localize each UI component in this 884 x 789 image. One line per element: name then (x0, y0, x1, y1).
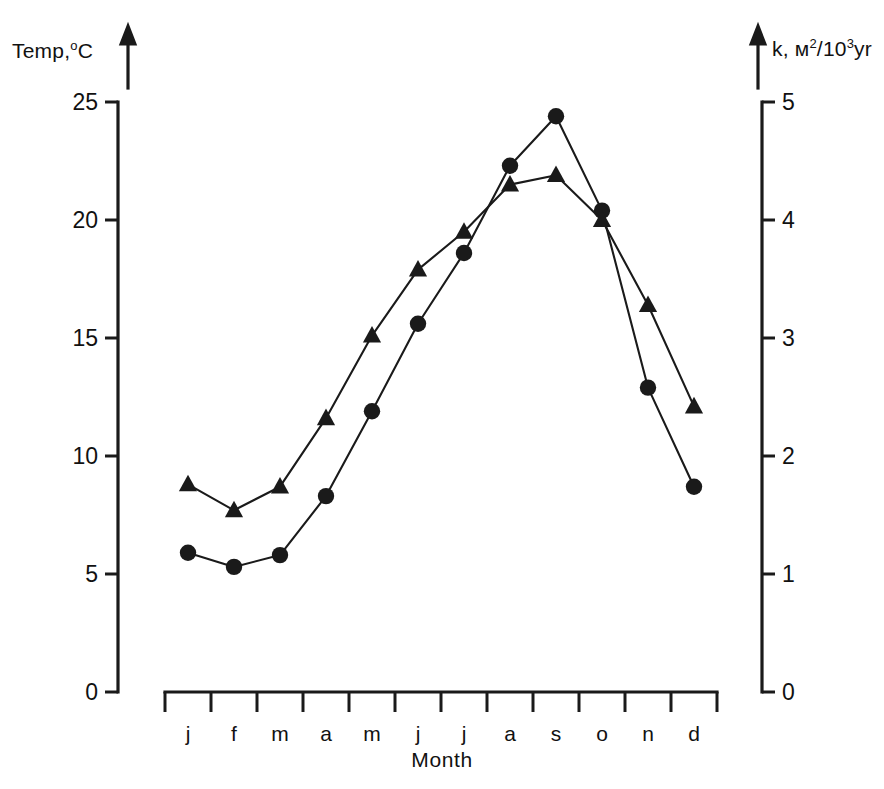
data-point-circle (686, 479, 702, 495)
data-point-circle (272, 547, 288, 563)
x-axis-month-label: o (596, 722, 608, 745)
x-axis-month-label: f (231, 722, 237, 745)
data-point-triangle (271, 477, 289, 494)
data-point-circle (502, 158, 518, 174)
plot-area: 0510152025 012345 jfmamjjasond (0, 0, 884, 789)
data-point-circle (226, 559, 242, 575)
x-axis-month-label: j (461, 722, 467, 745)
data-point-circle (548, 108, 564, 124)
left-axis-tick-label: 25 (72, 89, 98, 115)
left-axis: 0510152025 (72, 89, 118, 705)
data-point-circle (410, 316, 426, 332)
right-axis-tick-label: 1 (782, 561, 795, 587)
left-axis-tick-label: 20 (72, 207, 98, 233)
x-axis-month-label: m (363, 722, 381, 745)
left-axis-tick-label: 5 (85, 561, 98, 587)
right-axis-arrow-icon (751, 26, 765, 88)
data-point-circle (180, 545, 196, 561)
data-point-triangle (317, 409, 335, 426)
right-axis-tick-label: 0 (782, 679, 795, 705)
data-point-triangle (409, 260, 427, 277)
data-point-triangle (225, 501, 243, 518)
data-point-circle (456, 245, 472, 261)
data-point-circle (640, 379, 656, 395)
x-axis: jfmamjjasond (165, 692, 717, 745)
data-point-triangle (363, 326, 381, 343)
data-point-circle (364, 403, 380, 419)
x-axis-month-label: m (271, 722, 289, 745)
left-axis-tick-label: 15 (72, 325, 98, 351)
x-axis-month-label: a (504, 722, 516, 745)
x-axis-title: Month (0, 748, 884, 772)
series-line-k (188, 175, 694, 510)
x-axis-month-label: j (415, 722, 421, 745)
left-axis-arrow-icon (121, 26, 135, 88)
data-point-triangle (179, 475, 197, 492)
x-axis-month-label: s (551, 722, 562, 745)
data-point-triangle (685, 397, 703, 414)
right-axis: 012345 (762, 89, 795, 705)
right-axis-tick-label: 3 (782, 325, 795, 351)
data-point-triangle (639, 295, 657, 312)
chart-figure: Temp,oC k, м2/103yr 0510152025 012345 jf… (0, 0, 884, 789)
right-axis-tick-label: 4 (782, 207, 795, 233)
x-axis-month-label: d (688, 722, 700, 745)
right-axis-tick-label: 5 (782, 89, 795, 115)
x-axis-month-label: a (320, 722, 332, 745)
data-series (179, 108, 703, 575)
data-point-circle (318, 488, 334, 504)
data-point-triangle (547, 166, 565, 183)
x-axis-month-label: n (642, 722, 654, 745)
x-axis-month-label: j (185, 722, 191, 745)
left-axis-tick-label: 0 (85, 679, 98, 705)
right-axis-tick-label: 2 (782, 443, 795, 469)
series-line-temperature (188, 116, 694, 567)
left-axis-tick-label: 10 (72, 443, 98, 469)
